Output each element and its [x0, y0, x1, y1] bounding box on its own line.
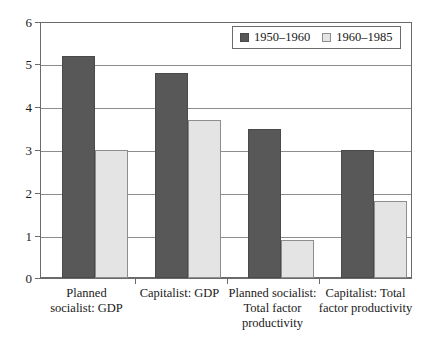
x-label-group-2: Planned socialist:Total factorproductivi…	[220, 286, 325, 331]
x-label-line: factor productivity	[313, 301, 418, 316]
dark-swatch-icon	[240, 33, 249, 42]
y-tick-label-5: 5	[6, 58, 32, 71]
y-tick-label-6: 6	[6, 16, 32, 29]
x-axis-labels: Plannedsocialist: GDPCapitalist: GDPPlan…	[40, 286, 412, 344]
y-tick-label-0: 0	[6, 272, 32, 285]
x-tick-3	[319, 278, 320, 284]
x-label-line: Capitalist: GDP	[127, 286, 232, 301]
legend-entry-1950-1960: 1950–1960	[240, 30, 310, 44]
legend-label-1950-1960: 1950–1960	[254, 30, 310, 44]
x-label-line: Planned	[34, 286, 139, 301]
bar-group-0-series-0	[62, 56, 95, 278]
x-label-line: Capitalist: Total	[313, 286, 418, 301]
x-label-line: productivity	[220, 316, 325, 331]
x-label-group-1: Capitalist: GDP	[127, 286, 232, 301]
x-label-line: Total factor	[220, 301, 325, 316]
x-label-line: Planned socialist:	[220, 286, 325, 301]
y-tick-label-3: 3	[6, 144, 32, 157]
light-swatch-icon	[322, 33, 331, 42]
bar-group-2-series-0	[248, 129, 281, 278]
x-tick-1	[135, 278, 136, 284]
x-label-group-3: Capitalist: Totalfactor productivity	[313, 286, 418, 316]
bar-group-1-series-0	[155, 73, 188, 278]
x-label-line: socialist: GDP	[34, 301, 139, 316]
bar-group-3-series-1	[374, 201, 407, 278]
bars-layer	[40, 22, 412, 278]
y-tick-label-2: 2	[6, 187, 32, 200]
bar-group-2-series-1	[281, 240, 314, 278]
y-tick-label-1: 1	[6, 230, 32, 243]
bar-group-1-series-1	[188, 120, 221, 278]
legend-entry-1960-1985: 1960–1985	[322, 30, 392, 44]
x-label-group-0: Plannedsocialist: GDP	[34, 286, 139, 316]
bar-chart: 6 5 4 3 2 1 0 Plannedsocialist: GDPCapit…	[0, 0, 436, 347]
x-axis-line	[40, 278, 412, 279]
bar-group-3-series-0	[341, 150, 374, 278]
y-tick-label-4: 4	[6, 101, 32, 114]
x-tick-2	[227, 278, 228, 284]
legend: 1950–1960 1960–1985	[232, 26, 401, 49]
legend-label-1960-1985: 1960–1985	[336, 30, 392, 44]
bar-group-0-series-1	[95, 150, 128, 278]
